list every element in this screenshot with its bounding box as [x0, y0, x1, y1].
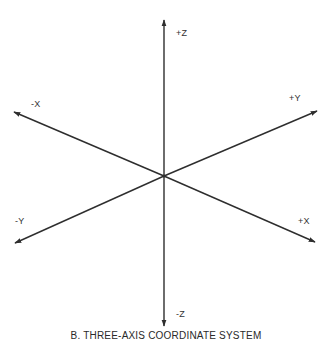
- x-axis-negative-line: [14, 112, 164, 176]
- y-axis-line: [164, 111, 317, 176]
- neg-y-label: -Y: [15, 217, 24, 226]
- figure-caption: B. THREE-AXIS COORDINATE SYSTEM: [0, 331, 332, 341]
- origin-point: [162, 174, 165, 177]
- axes-canvas: [0, 0, 332, 347]
- neg-z-label: -Z: [176, 310, 185, 319]
- x-axis-line: [164, 176, 315, 242]
- three-axis-diagram: +Z -X +Y -Y +X -Z B. THREE-AXIS COORDINA…: [0, 0, 332, 347]
- neg-x-label: -X: [31, 100, 40, 109]
- y-axis-negative-line: [15, 176, 164, 243]
- pos-x-label: +X: [298, 217, 310, 226]
- pos-z-label: +Z: [176, 29, 187, 38]
- pos-y-label: +Y: [289, 94, 301, 103]
